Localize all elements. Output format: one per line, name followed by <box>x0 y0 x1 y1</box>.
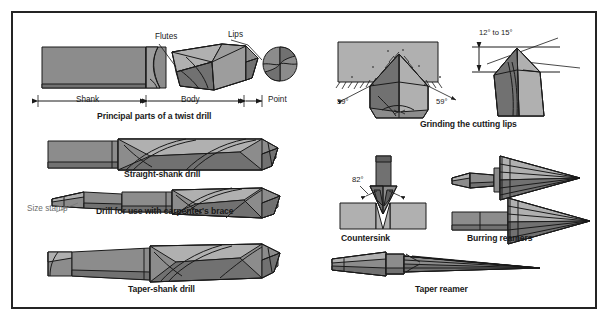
dimension-label-point: Point <box>268 96 287 104</box>
callout-lips: Lips <box>228 31 243 39</box>
art-burring-reamers <box>452 156 590 244</box>
callout-flutes: Flutes <box>155 33 177 41</box>
diagram-artwork: .m { fill:#8c8c8c; stroke:#1a1a1a; strok… <box>0 0 609 321</box>
angle-label-countersink: 82° <box>352 176 363 184</box>
art-taper-shank-drill <box>48 244 280 282</box>
dimension-label-body: Body <box>181 96 200 104</box>
caption-taper-shank-drill: Taper-shank drill <box>128 285 195 294</box>
caption-burring-reamers: Burring reamers <box>467 234 532 243</box>
caption-principal-parts: Principal parts of a twist drill <box>97 112 211 121</box>
caption-straight-shank-drill: Straight-shank drill <box>124 170 200 179</box>
caption-taper-reamer: Taper reamer <box>415 285 468 294</box>
caption-grinding-cutting-lips: Grinding the cutting lips <box>420 120 517 129</box>
caption-carpenters-brace-drill: Drill for use with carpenter's brace <box>96 207 233 216</box>
art-taper-reamer <box>332 252 540 276</box>
angle-label-left-59: 59° <box>337 98 348 106</box>
callout-size-stamp: Size stamp <box>27 205 68 213</box>
caption-countersink: Countersink <box>341 234 390 243</box>
dimension-label-shank: Shank <box>76 96 99 104</box>
angle-label-right-59: 59° <box>436 98 447 106</box>
art-straight-shank-drill <box>48 139 278 170</box>
art-grinding-wheel-view <box>336 42 456 118</box>
drill-tools-diagram: .m { fill:#8c8c8c; stroke:#1a1a1a; strok… <box>0 0 609 321</box>
art-clearance-angle-view <box>472 38 580 116</box>
angle-label-clearance: 12° to 15° <box>479 29 513 37</box>
art-countersink <box>340 156 426 229</box>
